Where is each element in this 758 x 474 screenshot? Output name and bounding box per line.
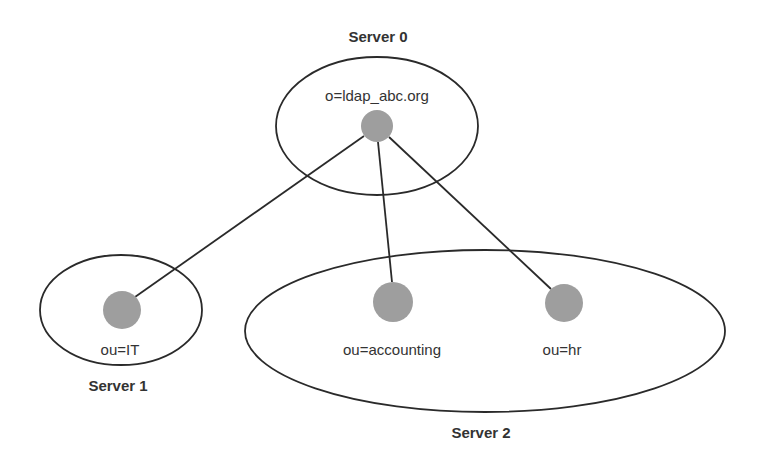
it-node-label: ou=IT — [101, 341, 140, 358]
edge-root-to-hr — [389, 137, 551, 289]
it-node — [103, 291, 141, 329]
edge-root-to-accounting — [378, 142, 392, 282]
edge-root-to-it — [135, 136, 364, 297]
server-0-label: Server 0 — [348, 28, 407, 45]
root-node — [361, 110, 393, 142]
accounting-node — [373, 282, 413, 322]
hr-node-label: ou=hr — [543, 341, 582, 358]
server-1-label: Server 1 — [88, 377, 147, 394]
server-2-label: Server 2 — [451, 424, 510, 441]
ldap-partition-diagram: o=ldap_abc.org ou=IT ou=accounting ou=hr… — [0, 0, 758, 474]
server-2-boundary — [245, 250, 725, 412]
root-node-label: o=ldap_abc.org — [325, 87, 429, 104]
hr-node — [545, 284, 583, 322]
accounting-node-label: ou=accounting — [343, 341, 441, 358]
